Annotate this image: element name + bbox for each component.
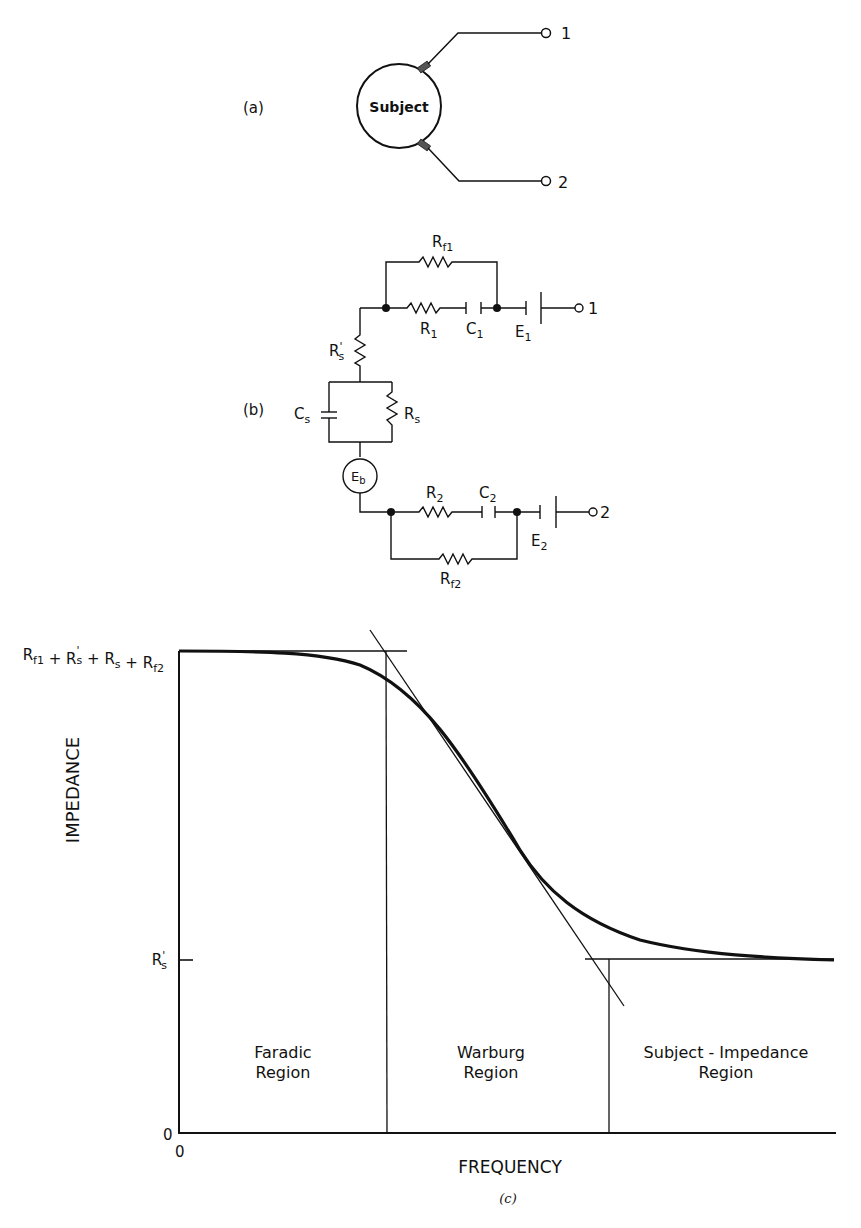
terminal-1-label: 1 [561,24,571,43]
region-warburg-line2: Region [464,1063,519,1082]
terminal-2-label: 2 [600,503,610,522]
region-faradic-line2: Region [256,1063,311,1082]
x-axis-title: FREQUENCY [458,1157,562,1177]
region-warburg-line1: Warburg [457,1043,525,1062]
terminal-1-icon [575,304,583,312]
y-axis-title: IMPEDANCE [62,737,83,843]
panel-b-label: (b) [243,401,264,419]
y-origin-label: 0 [163,1126,173,1144]
label-rs-prime: R's [329,340,344,363]
region-subject-line1: Subject - Impedance [644,1043,809,1062]
terminal-2-icon [589,508,597,516]
y-rs-prime-label: R's [152,949,167,972]
terminal-2-icon [542,177,551,186]
terminal-1-icon [542,29,551,38]
terminal-1-label: 1 [588,299,598,318]
subject-label: Subject [369,99,429,115]
figure-drawing: (a) Subject 1 2 [0,0,861,1228]
terminal-2-label: 2 [558,173,568,192]
region-faradic-line1: Faradic [254,1043,311,1062]
x-origin-label: 0 [175,1143,185,1161]
panel-a-label: (a) [243,99,264,117]
figure-caption: (c) [499,1191,516,1206]
region-subject-line2: Region [699,1063,754,1082]
